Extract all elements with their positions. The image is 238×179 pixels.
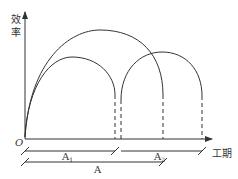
y-axis-label: 效率 [11, 13, 21, 38]
origin-label: O [15, 137, 23, 148]
label-a: A [93, 164, 102, 175]
curve-a1 [25, 57, 115, 137]
x-axis-label: 工期 [212, 148, 232, 159]
dimension-a1: A1 [21, 147, 119, 163]
dimension-a: A [21, 158, 167, 175]
label-a1: A1 [61, 151, 73, 163]
dimension-a2: A2 [121, 147, 206, 163]
curve-a [25, 30, 163, 137]
efficiency-schedule-diagram: 效率 O 工期 A1 A2 A [0, 0, 238, 179]
